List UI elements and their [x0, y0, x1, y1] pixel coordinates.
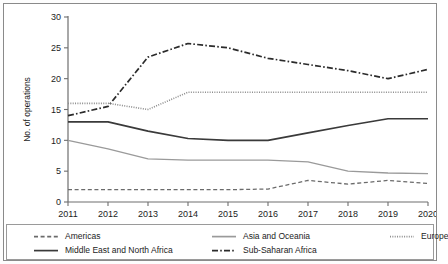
- series-line: [68, 140, 428, 173]
- series-line: [68, 92, 428, 109]
- legend-item-label: Middle East and North Africa: [65, 245, 173, 255]
- legend-item-label: Asia and Oceania: [243, 231, 310, 241]
- x-tick-label: 2012: [98, 209, 118, 219]
- legend-item[interactable]: Asia and Oceania: [211, 231, 389, 241]
- plot-area: 0510152025302011201220132014201520162017…: [4, 4, 436, 220]
- y-tick-label: 10: [51, 136, 61, 146]
- series-line: [68, 119, 428, 141]
- y-tick-label: 5: [56, 166, 61, 176]
- legend-line-swatch: [33, 232, 59, 241]
- y-axis-title: No. of operations: [22, 77, 32, 142]
- legend-line-swatch: [33, 246, 59, 255]
- x-tick-label: 2020: [418, 209, 436, 219]
- x-tick-label: 2017: [298, 209, 318, 219]
- legend-item[interactable]: Americas: [33, 231, 211, 241]
- legend-line-swatch: [211, 232, 237, 241]
- line-chart: 0510152025302011201220132014201520162017…: [4, 4, 436, 220]
- legend-line-swatch: [211, 246, 237, 255]
- x-tick-label: 2015: [218, 209, 238, 219]
- x-tick-label: 2016: [258, 209, 278, 219]
- legend-items: AmericasAsia and OceaniaEuropeMiddle Eas…: [7, 225, 433, 259]
- x-tick-label: 2013: [138, 209, 158, 219]
- y-tick-label: 30: [51, 12, 61, 22]
- legend-item-label: Europe: [421, 231, 448, 241]
- legend-item-label: Americas: [65, 231, 100, 241]
- legend-item[interactable]: Sub-Saharan Africa: [211, 245, 389, 255]
- x-tick-label: 2018: [338, 209, 358, 219]
- series-line: [68, 180, 428, 189]
- legend-item[interactable]: Middle East and North Africa: [33, 245, 211, 255]
- x-tick-label: 2011: [58, 209, 77, 219]
- legend-item-label: Sub-Saharan Africa: [243, 245, 317, 255]
- legend-line-swatch: [389, 232, 415, 241]
- y-tick-label: 20: [51, 74, 61, 84]
- chart-legend: AmericasAsia and OceaniaEuropeMiddle Eas…: [6, 224, 434, 260]
- x-tick-label: 2014: [178, 209, 198, 219]
- y-tick-label: 25: [51, 43, 61, 53]
- y-tick-label: 15: [51, 105, 61, 115]
- y-tick-label: 0: [56, 197, 61, 207]
- legend-item[interactable]: Europe: [389, 231, 448, 241]
- x-tick-label: 2019: [378, 209, 398, 219]
